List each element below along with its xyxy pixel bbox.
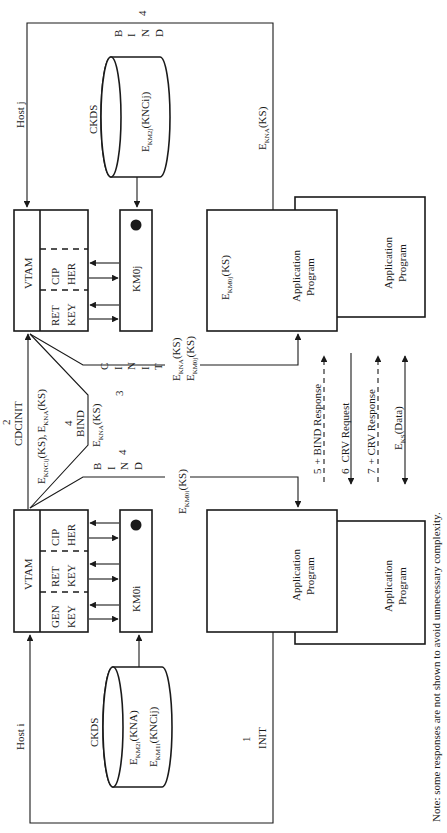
init-step: 1 bbox=[240, 737, 252, 743]
cinit-char-3: I bbox=[139, 366, 151, 370]
host-i-label: Host i bbox=[14, 723, 26, 750]
cinit-char-2: N bbox=[125, 362, 137, 370]
cinit-payload-1: EKNA(KS) bbox=[170, 337, 185, 381]
bind-cross-step: 4 bbox=[62, 420, 74, 426]
app-i1-l1: Application bbox=[290, 549, 302, 601]
vtam-i-retkey-2: KEY bbox=[65, 564, 77, 587]
bind-cross-payload: EKNA(KS) bbox=[90, 403, 105, 447]
cinit-step: 3 bbox=[113, 390, 125, 396]
km0i: KM0i bbox=[120, 510, 152, 632]
km0j: KM0j bbox=[120, 210, 152, 331]
cinit-char-4: T bbox=[152, 363, 164, 370]
session-flows: 5+ BIND Response 6CRV Request 7+ CRV Res… bbox=[311, 353, 407, 484]
key-dot-icon bbox=[131, 220, 142, 231]
ckds-i: CKDS EKM2i(KNA) EKM1i(KNCij) bbox=[88, 667, 172, 787]
flow-6: 6CRV Request bbox=[339, 403, 351, 474]
init-label: INIT bbox=[256, 727, 268, 749]
vtam-i-cipher-2: HER bbox=[65, 523, 77, 546]
bind-cross-label: BIND bbox=[74, 410, 86, 437]
cdcinit-step: 2 bbox=[0, 420, 12, 426]
cinit-payload-2: EKM0j(KS) bbox=[184, 336, 199, 381]
footnote: Note: some responses are not shown to av… bbox=[430, 512, 442, 822]
bind-j-char-1: I bbox=[125, 33, 137, 37]
ckds-j-label: CKDS bbox=[87, 105, 99, 134]
vtam-i-retkey-1: RET bbox=[49, 566, 61, 587]
app-j1-l1: Application bbox=[290, 250, 302, 302]
bind-i-char-3: D bbox=[132, 462, 144, 470]
app-j2-l2: Program bbox=[396, 244, 408, 282]
bind-j-char-0: B bbox=[112, 30, 124, 37]
cinit-char-0: C bbox=[98, 363, 110, 370]
bind-j-payload: EKNA(KS) bbox=[256, 106, 271, 150]
app-j1-l2: Program bbox=[304, 258, 316, 296]
km0i-label: KM0i bbox=[130, 586, 142, 612]
vtam-j-label: VTAM bbox=[22, 257, 34, 289]
bind-i-payload: EKM0i(KS) bbox=[176, 469, 191, 514]
vtam-i-cipher-1: CIP bbox=[49, 529, 61, 546]
key-dot-icon bbox=[131, 520, 142, 531]
vtam-i: VTAM CIP HER RET KEY GEN KEY bbox=[14, 510, 88, 632]
vtam-j-retkey-2: KEY bbox=[65, 303, 77, 326]
vtam-i-genkey-2: KEY bbox=[65, 605, 77, 628]
app-i1-l2: Program bbox=[304, 557, 316, 595]
cdcinit-label: CDCINIT bbox=[12, 401, 24, 446]
bind-j-char-2: N bbox=[139, 29, 151, 37]
bind-j-char-3: D bbox=[153, 29, 165, 37]
host-j-label: Host j bbox=[14, 101, 26, 128]
vtam-j-retkey-1: RET bbox=[49, 305, 61, 326]
vtam-j: VTAM CIP HER RET KEY bbox=[14, 210, 88, 331]
cdcinit-payload: EKNCij(KS),EKNA(KS) bbox=[35, 389, 50, 484]
session-key-distribution-diagram: Host j 4 B I N D EKNA(KS) CKDS EKM2j(KNC… bbox=[0, 0, 447, 833]
host-j: Host j 4 B I N D EKNA(KS) CKDS EKM2j(KNC… bbox=[14, 10, 425, 331]
host-i: VTAM CIP HER RET KEY GEN KEY KM0i CKDS E… bbox=[14, 510, 425, 823]
ckds-j: CKDS EKM2j(KNCij) bbox=[87, 57, 170, 177]
vtam-j-cipher-1: CIP bbox=[49, 268, 61, 285]
vtam-i-label: VTAM bbox=[22, 558, 34, 590]
bind-j-step: 4 bbox=[136, 10, 148, 16]
app-i2-l1: Application bbox=[382, 560, 394, 612]
bind-i-char-1: I bbox=[105, 466, 117, 470]
bind-i-char-0: B bbox=[91, 463, 103, 470]
km0j-label: KM0j bbox=[130, 266, 142, 292]
cinit-char-1: I bbox=[112, 366, 124, 370]
cross-domain-messages: 2 CDCINIT EKNCij(KS),EKNA(KS) 4 BIND EKN… bbox=[0, 334, 298, 514]
app-program-i-primary bbox=[207, 510, 337, 632]
bind-i-char-2: N bbox=[118, 462, 130, 470]
ckds-i-label: CKDS bbox=[88, 718, 100, 747]
flow-5: 5+ BIND Response bbox=[311, 384, 323, 474]
bind-i-step: 4 bbox=[116, 449, 128, 455]
app-i2-l2: Program bbox=[396, 567, 408, 605]
app-j2-l1: Application bbox=[382, 237, 394, 289]
flow-7: 7+ CRV Response bbox=[365, 389, 377, 474]
vtam-i-genkey-1: GEN bbox=[49, 605, 61, 628]
vtam-j-cipher-2: HER bbox=[65, 262, 77, 285]
